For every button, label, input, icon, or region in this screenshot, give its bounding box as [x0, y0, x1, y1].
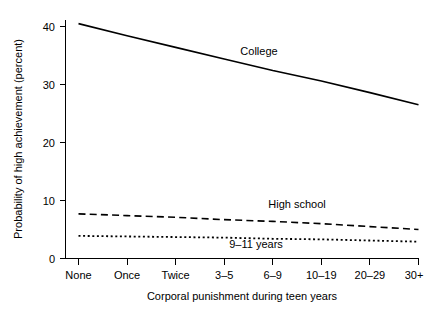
x-tick-label-3-5: 3–5: [215, 269, 233, 281]
series-label-high-school: High school: [268, 198, 325, 210]
x-tick-label-once: Once: [114, 269, 140, 281]
x-tick-marks: [79, 259, 419, 266]
y-axis-title: Probability of high achievement (percent…: [12, 39, 24, 239]
x-tick-label-none: None: [65, 269, 91, 281]
line-chart: 40 30 20 10 0 None Once Twice 3–5 6–9 10…: [0, 0, 445, 311]
y-tick-label-40: 40: [43, 21, 55, 33]
x-tick-label-10-19: 10–19: [306, 269, 337, 281]
series-annotations: College High school 9–11 years: [229, 45, 326, 250]
x-tick-label-twice: Twice: [162, 269, 190, 281]
x-tick-labels: None Once Twice 3–5 6–9 10–19 20–29 30+: [65, 269, 423, 281]
x-tick-label-30plus: 30+: [405, 269, 424, 281]
x-tick-label-6-9: 6–9: [264, 269, 282, 281]
chart-figure: 40 30 20 10 0 None Once Twice 3–5 6–9 10…: [0, 0, 445, 311]
x-axis-title: Corporal punishment during teen years: [147, 290, 338, 302]
series-line-high-school: [79, 214, 419, 230]
series-label-college: College: [240, 45, 277, 57]
y-tick-labels: 40 30 20 10 0: [43, 21, 55, 265]
y-tick-marks: [60, 27, 66, 259]
series-label-9-11-years: 9–11 years: [229, 238, 283, 250]
y-tick-label-10: 10: [43, 195, 55, 207]
x-tick-label-20-29: 20–29: [355, 269, 386, 281]
y-tick-label-30: 30: [43, 79, 55, 91]
series-line-college: [79, 24, 419, 105]
y-tick-label-0: 0: [49, 253, 55, 265]
y-tick-label-20: 20: [43, 137, 55, 149]
